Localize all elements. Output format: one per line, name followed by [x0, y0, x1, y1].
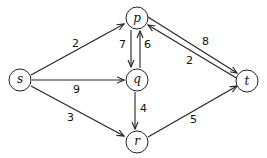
edge-weight-label: 3 [67, 111, 74, 124]
node-label: s [17, 72, 23, 86]
edge-q-p: 6 [140, 31, 151, 68]
node-t: t [236, 70, 258, 92]
node-p: p [126, 7, 148, 29]
edge-weight-label: 4 [140, 102, 147, 115]
edge-p-q: 7 [119, 30, 131, 67]
node-label: p [133, 11, 141, 25]
edge-weight-label: 9 [73, 83, 80, 96]
edge-weight-label: 8 [202, 35, 209, 48]
node-label: t [245, 74, 250, 88]
edge-weight-label: 6 [144, 38, 151, 51]
node-r: r [126, 131, 148, 153]
edge-weight-label: 2 [186, 54, 193, 67]
graph-diagram: 2 9 3 7 6 4 8 2 5 p q r [0, 0, 267, 158]
edge-weight-label: 2 [72, 37, 79, 50]
edge-r-t: 5 [148, 86, 237, 137]
node-q: q [126, 69, 148, 91]
node-s: s [9, 69, 31, 91]
edge-q-r: 4 [135, 92, 147, 129]
edge-weight-label: 7 [119, 38, 126, 51]
edge-s-p: 2 [31, 24, 124, 75]
edge-weight-label: 5 [190, 113, 197, 126]
edge-t-p: 2 [148, 25, 238, 79]
node-label: q [133, 72, 141, 86]
